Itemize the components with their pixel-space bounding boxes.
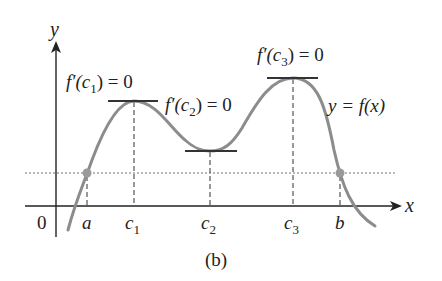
annotation-c2: f′(c2) = 0 [165, 94, 232, 119]
tick-label-a: a [82, 212, 92, 233]
figure-caption: (b) [205, 249, 227, 271]
tick-label-c2: c2 [201, 212, 216, 237]
tick-label-b: b [335, 212, 345, 233]
tick-label-c1: c1 [125, 212, 140, 237]
curve-label: y = f(x) [326, 95, 385, 117]
point-a [83, 169, 92, 178]
annotation-c1: f′(c1) = 0 [66, 71, 133, 96]
annotation-c3: f′(c3) = 0 [257, 44, 324, 69]
point-b [336, 169, 345, 178]
figure-svg: y x 0 a c1 c2 c3 b f′(c1) = 0 f′(c2) = 0… [0, 0, 442, 281]
y-axis-label: y [48, 18, 59, 41]
rolle-theorem-figure: y x 0 a c1 c2 c3 b f′(c1) = 0 f′(c2) = 0… [0, 0, 442, 281]
tick-label-c3: c3 [284, 212, 299, 237]
x-axis-label: x [404, 194, 414, 216]
origin-label: 0 [37, 212, 47, 233]
